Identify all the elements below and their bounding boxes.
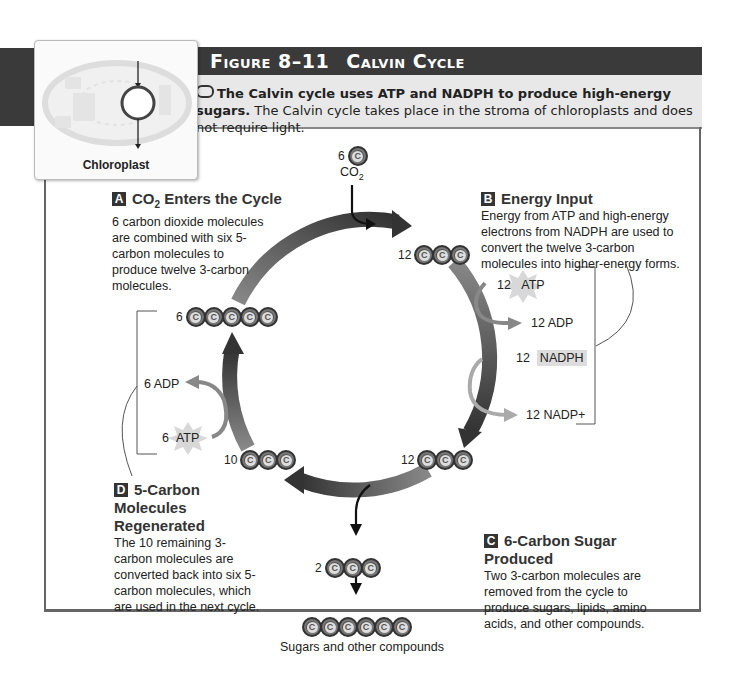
count: 2 — [315, 561, 322, 575]
step-a-title-pre: CO — [132, 190, 155, 207]
carbon-atom-icon: C — [240, 307, 260, 327]
count: 10 — [224, 453, 237, 467]
step-a-body: 6 carbon dioxide molecules are combined … — [112, 214, 272, 294]
atp-in-d: 6 ATP — [162, 431, 199, 445]
carbon-atom-icon: C — [240, 450, 260, 470]
step-a-title-post: Enters the Cycle — [160, 190, 282, 207]
atp-in-b: 12 ATP — [497, 278, 545, 292]
step-c-badge: C — [484, 534, 498, 548]
step-b-title: BEnergy Input — [481, 190, 691, 208]
sugar-molecule: C C C C C C — [302, 617, 410, 637]
carbon-atom-icon: C — [258, 307, 278, 327]
step-d-badge: D — [114, 483, 128, 497]
adp-out-b: 12 ADP — [531, 316, 573, 330]
nadp-out: 12 NADP+ — [526, 408, 585, 422]
carbon-atom-icon: C — [348, 146, 368, 166]
step-c: C6-Carbon Sugar Produced Two 3-carbon mo… — [484, 532, 649, 632]
molecule-bottom-left: 10 C C C — [224, 450, 294, 470]
count: 12 — [401, 453, 414, 467]
carbon-atom-icon: C — [186, 307, 206, 327]
step-c-title-text: 6-Carbon Sugar Produced — [484, 532, 617, 567]
step-c-title: C6-Carbon Sugar Produced — [484, 532, 649, 568]
carbon-atom-icon: C — [204, 307, 224, 327]
carbon-atom-icon: C — [453, 450, 473, 470]
molecule-bottom-right: 12 C C C — [401, 450, 471, 470]
step-d: D5-Carbon Molecules Regenerated The 10 r… — [114, 481, 264, 615]
carbon-atom-icon: C — [435, 450, 455, 470]
step-b-title-text: Energy Input — [501, 190, 593, 207]
molecule-output: 2 C C C — [315, 558, 379, 578]
step-d-body: The 10 remaining 3-carbon molecules are … — [114, 535, 264, 615]
step-a: ACO2 Enters the Cycle 6 carbon dioxide m… — [112, 190, 282, 294]
co2-count: 6 — [338, 149, 345, 163]
molecule-left: 6 C C C C C — [176, 307, 276, 327]
count: 6 — [176, 310, 183, 324]
step-b-body: Energy from ATP and high-energy electron… — [481, 208, 691, 272]
count: 12 — [398, 248, 411, 262]
carbon-atom-icon: C — [417, 450, 437, 470]
step-d-title: D5-Carbon Molecules Regenerated — [114, 481, 264, 535]
carbon-atom-icon: C — [302, 617, 322, 637]
adp-out-d: 6 ADP — [144, 377, 179, 391]
carbon-atom-icon: C — [450, 245, 470, 265]
step-a-badge: A — [112, 192, 126, 206]
carbon-atom-icon: C — [276, 450, 296, 470]
carbon-atom-icon: C — [414, 245, 434, 265]
carbon-atom-icon: C — [258, 450, 278, 470]
carbon-atom-icon: C — [392, 617, 412, 637]
step-c-body: Two 3-carbon molecules are removed from … — [484, 568, 649, 632]
step-a-title: ACO2 Enters the Cycle — [112, 190, 282, 214]
molecule-top-right: 12 C C C — [398, 245, 468, 265]
step-b: BEnergy Input Energy from ATP and high-e… — [481, 190, 691, 272]
carbon-atom-icon: C — [432, 245, 452, 265]
step-b-badge: B — [481, 192, 495, 206]
carbon-atom-icon: C — [361, 558, 381, 578]
co2-label: CO2 — [340, 165, 364, 182]
carbon-atom-icon: C — [338, 617, 358, 637]
sugar-label: Sugars and other compounds — [280, 640, 444, 654]
nadph-in: 12 NADPH — [516, 351, 587, 365]
carbon-atom-icon: C — [374, 617, 394, 637]
carbon-atom-icon: C — [325, 558, 345, 578]
carbon-atom-icon: C — [356, 617, 376, 637]
carbon-atom-icon: C — [343, 558, 363, 578]
co2-molecule: 6 C — [338, 146, 366, 166]
carbon-atom-icon: C — [320, 617, 340, 637]
carbon-atom-icon: C — [222, 307, 242, 327]
